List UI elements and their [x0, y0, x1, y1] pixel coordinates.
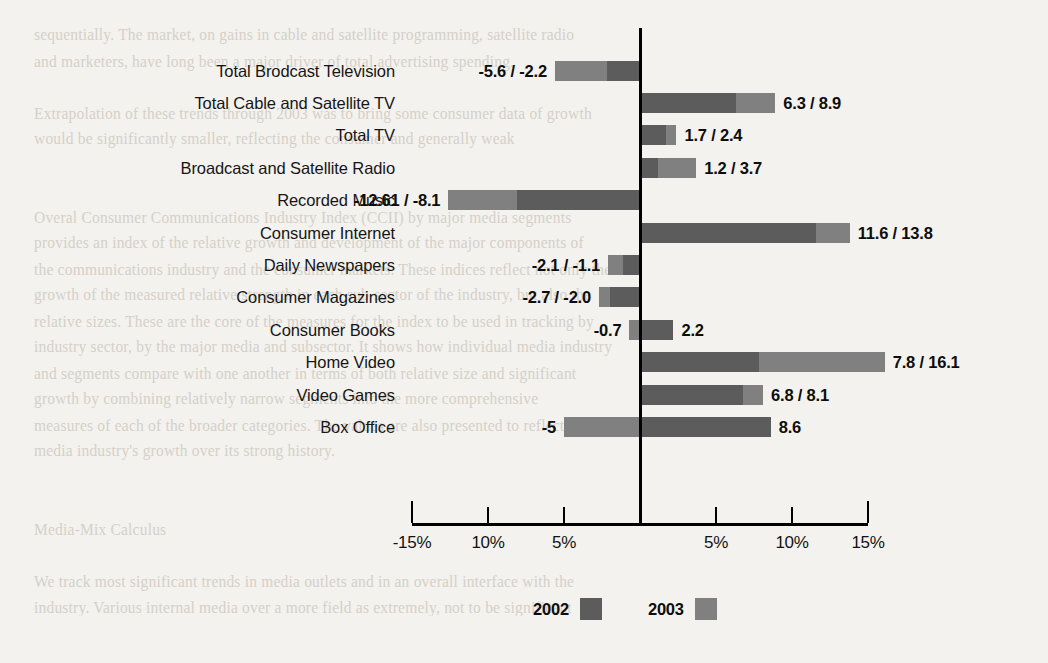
category-label: Consumer Magazines — [236, 288, 395, 307]
category-label: Consumer Internet — [260, 223, 395, 242]
bar-segment-2002 — [517, 190, 640, 210]
bar-segment-2002 — [610, 287, 640, 307]
legend-swatch — [695, 598, 717, 620]
chart-row: Consumer Magazines-2.7 / -2.0 — [0, 282, 1048, 313]
bar-segment-2002 — [640, 223, 816, 243]
bar-value-label: 6.3 / 8.9 — [783, 93, 841, 112]
x-axis-tick-label: 10% — [775, 533, 808, 553]
legend-label: 2003 — [648, 600, 684, 619]
chart-row: Consumer Internet11.6 / 13.8 — [0, 217, 1048, 248]
bar-segment-2002 — [640, 352, 759, 372]
bar-value-label-secondary: 8.6 — [779, 417, 801, 436]
chart-row: Consumer Books-0.72.2 — [0, 314, 1048, 345]
chart-row: Total Brodcast Television-5.6 / -2.2 — [0, 55, 1048, 86]
x-axis-tick-label: 5% — [704, 533, 728, 553]
chart-row: Box Office-58.6 — [0, 411, 1048, 442]
category-label: Broadcast and Satellite Radio — [181, 158, 396, 177]
legend: 20022003 — [533, 598, 717, 620]
category-label: Total Cable and Satellite TV — [194, 93, 395, 112]
legend-spacer — [602, 609, 648, 610]
zero-axis-line — [639, 28, 642, 523]
bar-value-label: 11.6 / 13.8 — [858, 223, 933, 242]
chart-row: Daily Newspapers-2.1 / -1.1 — [0, 249, 1048, 280]
x-axis-tick-label: 15% — [851, 533, 884, 553]
x-axis-tick — [563, 507, 565, 523]
bar-segment-2003 — [564, 417, 640, 437]
chart-row: Total Cable and Satellite TV6.3 / 8.9 — [0, 87, 1048, 118]
bar-value-label: -5.6 / -2.2 — [478, 61, 546, 80]
bar-segment-2002 — [607, 61, 640, 81]
x-axis-tick — [487, 507, 489, 523]
bar-value-label: -2.1 / -1.1 — [532, 255, 600, 274]
bar-value-label: 7.8 / 16.1 — [893, 353, 960, 372]
bar-segment-2002 — [640, 158, 658, 178]
x-axis-tick — [715, 507, 717, 523]
chart-row: Total TV1.7 / 2.4 — [0, 120, 1048, 151]
legend-item-2003[interactable]: 2003 — [648, 598, 717, 620]
x-axis-tick-label: 10% — [471, 533, 504, 553]
category-label: Consumer Books — [270, 320, 395, 339]
category-label: Daily Newspapers — [264, 255, 395, 274]
category-label: Home Video — [305, 353, 395, 372]
x-axis-line — [412, 523, 868, 526]
bar-segment-2002 — [623, 255, 640, 275]
category-label: Video Games — [296, 385, 395, 404]
horizontal-bar-chart: Total Brodcast Television-5.6 / -2.2Tota… — [0, 0, 1048, 663]
category-label: Total Brodcast Television — [216, 61, 395, 80]
bar-value-label: 6.8 / 8.1 — [771, 385, 829, 404]
bar-value-label: -0.7 — [594, 320, 622, 339]
chart-row: Recorded Music-12.61 / -8.1 — [0, 185, 1048, 216]
chart-row: Video Games6.8 / 8.1 — [0, 379, 1048, 410]
legend-item-2002[interactable]: 2002 — [533, 598, 602, 620]
bar-value-label: -5 — [542, 417, 556, 436]
chart-row: Home Video7.8 / 16.1 — [0, 347, 1048, 378]
x-axis-tick — [411, 501, 413, 523]
bar-segment-2002 — [640, 125, 666, 145]
category-label: Total TV — [336, 126, 395, 145]
bar-value-label: -12.61 / -8.1 — [354, 191, 440, 210]
legend-label: 2002 — [533, 600, 569, 619]
bar-segment-2002 — [640, 385, 743, 405]
x-axis-tick-label: -15% — [393, 533, 432, 553]
plot-area: Total Brodcast Television-5.6 / -2.2Tota… — [0, 0, 1048, 663]
x-axis-tick-label: 5% — [552, 533, 576, 553]
bar-value-label-secondary: 2.2 — [681, 320, 703, 339]
bar-segment-2002 — [640, 320, 673, 340]
category-label: Box Office — [320, 417, 395, 436]
x-axis-tick — [791, 507, 793, 523]
bar-value-label: -2.7 / -2.0 — [523, 288, 591, 307]
bar-value-label: 1.7 / 2.4 — [684, 126, 742, 145]
chart-row: Broadcast and Satellite Radio1.2 / 3.7 — [0, 152, 1048, 183]
bar-segment-2002 — [640, 417, 771, 437]
bar-segment-2002 — [640, 93, 736, 113]
legend-swatch — [580, 598, 602, 620]
bar-value-label: 1.2 / 3.7 — [704, 158, 762, 177]
x-axis-tick — [867, 501, 869, 523]
